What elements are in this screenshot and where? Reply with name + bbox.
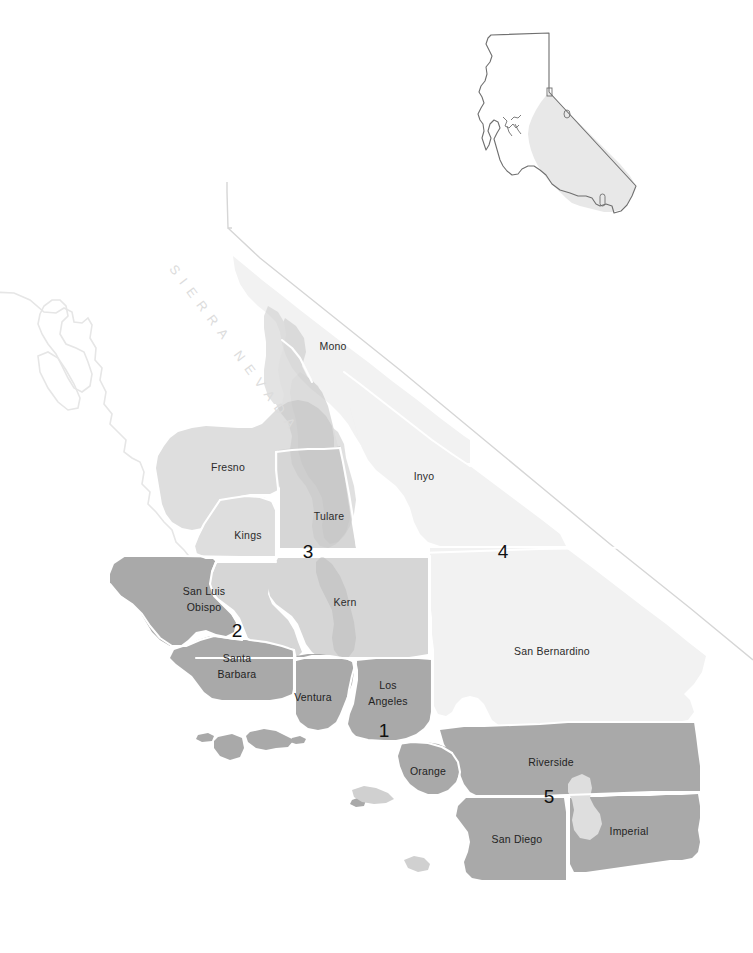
- county-label-santa-barbara-line2: Barbara: [218, 668, 257, 680]
- county-label-kern: Kern: [334, 596, 357, 608]
- southern-california-map-svg: SIERRA NEVADA Mono Inyo Fresno Tulare Ki…: [0, 0, 753, 953]
- county-label-san-luis-obispo-line1: San Luis: [183, 585, 225, 597]
- county-label-santa-barbara-line1: Santa: [223, 652, 251, 664]
- county-label-san-bernardino: San Bernardino: [514, 645, 590, 657]
- map-canvas: SIERRA NEVADA Mono Inyo Fresno Tulare Ki…: [0, 0, 753, 953]
- county-label-orange: Orange: [410, 765, 446, 777]
- marker-3[interactable]: 3: [303, 541, 314, 562]
- marker-4[interactable]: 4: [498, 541, 509, 562]
- marker-1[interactable]: 1: [379, 720, 390, 741]
- county-label-imperial: Imperial: [610, 825, 649, 837]
- county-label-mono: Mono: [319, 340, 346, 352]
- county-label-kings: Kings: [234, 529, 261, 541]
- county-label-san-diego: San Diego: [492, 833, 543, 845]
- county-label-fresno: Fresno: [211, 461, 245, 473]
- county-label-riverside: Riverside: [528, 756, 574, 768]
- county-label-los-angeles-line2: Angeles: [368, 695, 407, 707]
- county-label-ventura: Ventura: [294, 691, 332, 703]
- county-label-inyo: Inyo: [414, 470, 435, 482]
- county-label-tulare: Tulare: [314, 510, 345, 522]
- marker-5[interactable]: 5: [544, 786, 555, 807]
- county-label-los-angeles-line1: Los: [379, 679, 397, 691]
- marker-2[interactable]: 2: [232, 620, 243, 641]
- county-label-san-luis-obispo-line2: Obispo: [187, 601, 221, 613]
